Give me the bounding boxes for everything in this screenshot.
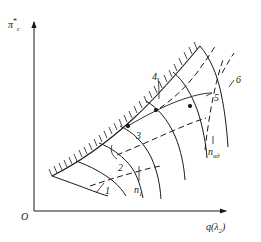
surge-line-group [49, 42, 200, 176]
origin-label: O [21, 212, 28, 222]
leader-label-6 [229, 80, 234, 87]
efficiency-line-top-right [222, 53, 234, 73]
curve-label-1: 1 [105, 186, 110, 196]
speed-label-n-max: nид [208, 147, 220, 160]
efficiency-line-right [205, 60, 223, 150]
curve-label-2: 2 [118, 163, 123, 173]
speed-label-n-min: n1 [134, 185, 142, 198]
operating-point-a [126, 124, 129, 127]
surge-hatching [49, 42, 197, 176]
speed-line-1 [52, 176, 108, 196]
n-max-subscript: ид [213, 152, 220, 159]
y-axis-label: π*c [8, 18, 20, 33]
efficiency-line-low [90, 166, 161, 186]
n-min-subscript: 1 [139, 190, 142, 197]
optimum-locus [126, 93, 212, 127]
leader-label-1 [96, 183, 104, 193]
curve-label-3: 3 [136, 131, 141, 141]
operating-point-c [188, 104, 191, 107]
compressor-map-figure: π*c q(λ2) O 1 2 3 4 5 6 n1 nид [0, 0, 261, 242]
optimum-locus-group [126, 93, 212, 128]
axes-group [34, 22, 226, 211]
x-axis-paren-close: ) [222, 221, 225, 232]
efficiency-line-high [160, 45, 216, 108]
operating-point-b [154, 108, 157, 111]
curve-label-6: 6 [236, 75, 241, 85]
y-axis-subscript: c [17, 25, 20, 32]
surge-line [52, 46, 200, 176]
map-drawing [0, 0, 261, 242]
efficiency-line-mid [117, 118, 206, 155]
x-axis-label: q(λ2) [206, 222, 225, 235]
curve-label-5: 5 [214, 93, 219, 103]
curve-label-4: 4 [152, 72, 157, 82]
speed-lines-group [52, 46, 228, 199]
